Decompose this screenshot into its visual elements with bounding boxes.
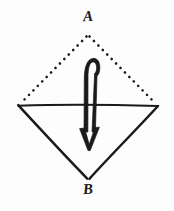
vertex-label-a: A [76, 8, 101, 24]
edge-apex-to-left-dotted [21, 37, 87, 104]
fold-arrow-body [84, 58, 100, 132]
vertex-label-b: B [76, 181, 101, 198]
fold-arrow-head [80, 127, 100, 150]
edge-left-to-bottom-solid [18, 105, 87, 178]
geometry-figure: A B [0, 0, 174, 211]
fold-arrow-right-stroke [92, 74, 97, 132]
figure-canvas [0, 0, 174, 211]
edge-right-to-bottom-solid [89, 106, 158, 179]
